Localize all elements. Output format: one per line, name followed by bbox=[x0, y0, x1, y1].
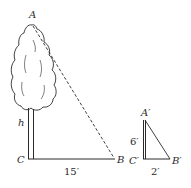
tree-crown bbox=[11, 25, 56, 110]
similar-triangles-diagram: A h C B 15′ A′ 6′ C′ 2′ B′ bbox=[0, 0, 191, 188]
label-base-15: 15′ bbox=[64, 166, 80, 177]
label-b: B bbox=[116, 154, 124, 165]
label-base-2: 2′ bbox=[151, 166, 160, 177]
tree-trunk bbox=[29, 108, 34, 159]
label-a: A bbox=[28, 9, 36, 20]
label-height-6: 6′ bbox=[130, 136, 139, 147]
label-c-prime: C′ bbox=[129, 155, 140, 166]
label-h: h bbox=[18, 117, 24, 128]
small-triangle bbox=[143, 120, 170, 159]
label-c: C bbox=[17, 154, 25, 165]
label-b-prime: B′ bbox=[171, 155, 182, 166]
label-a-prime: A′ bbox=[140, 107, 151, 118]
hypotenuse-ab-dashed bbox=[33, 26, 114, 158]
